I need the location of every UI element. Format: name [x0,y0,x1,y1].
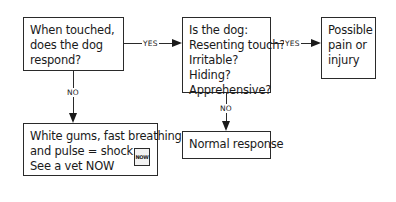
node-text-line: When touched, [30,23,117,38]
node-normal-response: Normal response [182,131,271,159]
now-urgent-icon: NOW [134,148,150,166]
edge-label-yes: YES [284,39,301,48]
node-text-line: Resenting touch? [189,38,264,53]
node-text-line: does the dog [30,38,117,53]
node-text-line: Hiding? [189,68,264,83]
edge-label-yes: YES [142,39,159,48]
node-when-touched: When touched, does the dog respond? [23,17,124,71]
node-text-line: Irritable? [189,53,264,68]
arrow-head-icon [222,121,230,131]
arrow-head-icon [69,113,77,123]
node-text-line: Possible [328,23,369,38]
node-text-line: See a vet NOW [30,159,151,174]
edge-label-no: NO [219,104,233,113]
node-possible-pain: Possible pain or injury [321,17,376,79]
node-is-the-dog: Is the dog: Resenting touch? Irritable? … [182,17,271,93]
node-text-line: injury [328,53,369,68]
node-text-line: pain or [328,38,369,53]
node-text-line: Is the dog: [189,23,264,38]
node-text-line: Normal response [189,137,264,152]
arrow-head-icon [172,39,182,47]
edge-label-no: NO [66,88,80,97]
node-text-line: respond? [30,53,117,68]
node-text-line: White gums, fast breathing [30,129,151,144]
node-text-line: and pulse = shock. [30,144,151,159]
arrow-head-icon [311,39,321,47]
